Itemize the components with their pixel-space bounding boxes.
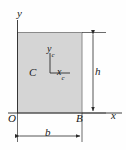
centroidal-x-axis-label-subscript: c [61, 74, 64, 82]
rectangle-centroid-diagram: y x O B C yc xc h b [0, 0, 126, 150]
x-axis-label: x [111, 110, 116, 121]
centroid-label: C [29, 67, 36, 78]
point-b-label: B [76, 113, 83, 124]
centroidal-y-axis-label-subscript: c [51, 51, 54, 59]
height-dimension-label: h [95, 66, 101, 77]
centroidal-y-axis-label: yc [47, 44, 55, 57]
origin-label: O [8, 113, 16, 124]
centroidal-x-axis-label: xc [57, 67, 65, 80]
y-axis-label: y [17, 8, 22, 19]
width-dimension-label: b [45, 127, 51, 138]
